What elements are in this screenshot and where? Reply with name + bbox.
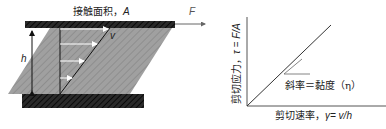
slope-annotation: 斜率＝黏度（η） xyxy=(285,81,361,91)
shear-flow-graphic xyxy=(0,0,230,129)
force-label: F xyxy=(189,7,195,17)
y-axis-formula: τ = F/A xyxy=(231,23,242,54)
velocity-label: v xyxy=(110,31,115,41)
slope-indicator xyxy=(284,59,302,74)
x-axis-formula: γ= v/h xyxy=(325,110,352,121)
x-axis-label-text: 剪切速率， xyxy=(275,110,325,121)
height-label: h xyxy=(21,54,27,64)
contact-area-label: 接触面积，A xyxy=(73,7,130,17)
y-axis-label: 剪切应力，τ = F/A xyxy=(232,23,242,104)
data-line xyxy=(247,25,331,106)
top-plate xyxy=(25,21,175,28)
y-axis-label-text: 剪切应力， xyxy=(231,54,242,104)
contact-area-symbol: A xyxy=(123,6,130,17)
x-axis-label: 剪切速率，γ= v/h xyxy=(275,111,352,121)
bottom-plate xyxy=(22,94,144,108)
fluid-layer xyxy=(8,28,172,94)
contact-area-text: 接触面积， xyxy=(73,6,123,17)
